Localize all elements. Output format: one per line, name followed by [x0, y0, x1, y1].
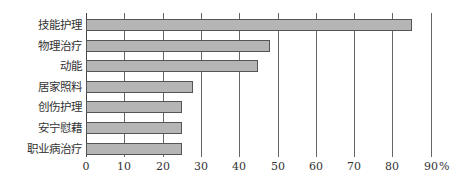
category-label: 安宁慰藉 — [38, 121, 82, 135]
category-label: 技能护理 — [38, 18, 82, 32]
bar — [86, 40, 270, 52]
bar — [86, 101, 182, 113]
gridline — [278, 13, 279, 157]
category-label: 职业病治疗 — [27, 142, 82, 156]
horizontal-bar-chart: 0102030405060708090%技能护理物理治疗动能居家照料创伤护理安宁… — [0, 0, 475, 184]
category-label: 动能 — [60, 59, 82, 73]
x-tick-label: 70 — [347, 160, 361, 173]
x-tick-label: 50 — [271, 160, 285, 173]
x-tick-label: 90 — [424, 160, 438, 173]
x-tick-label: 20 — [156, 160, 170, 173]
bar — [86, 81, 193, 93]
category-label: 居家照料 — [38, 80, 82, 94]
x-tick-label: 80 — [385, 160, 399, 173]
bar — [86, 143, 182, 155]
gridline — [239, 13, 240, 157]
x-tick-label: 40 — [232, 160, 246, 173]
gridline — [354, 13, 355, 157]
category-label: 创伤护理 — [38, 100, 82, 114]
gridline — [431, 13, 432, 157]
x-tick-label: 0 — [83, 160, 90, 173]
category-label: 物理治疗 — [38, 39, 82, 53]
bar — [86, 19, 412, 31]
x-tick-label: 10 — [117, 160, 131, 173]
x-axis-unit-label: % — [439, 160, 449, 173]
bar — [86, 60, 258, 72]
bar — [86, 122, 182, 134]
gridline — [392, 13, 393, 157]
gridline — [201, 13, 202, 157]
gridline — [316, 13, 317, 157]
x-tick-label: 30 — [194, 160, 208, 173]
x-tick-label: 60 — [309, 160, 323, 173]
